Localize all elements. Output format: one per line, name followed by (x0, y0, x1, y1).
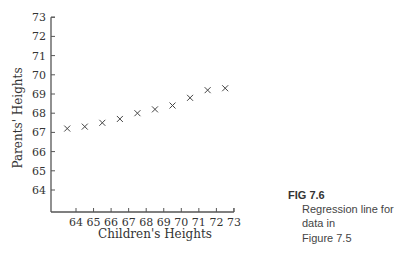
x-marker (222, 85, 228, 91)
x-tick-label: 73 (227, 216, 241, 229)
y-tick-label: 69 (32, 88, 46, 101)
x-marker (117, 116, 123, 122)
y-tick-label: 65 (32, 165, 46, 178)
figure-caption: FIG 7.6 Regression line for data in Figu… (288, 189, 402, 245)
y-tick-label: 66 (32, 146, 46, 159)
x-axis-title: Children's Heights (98, 227, 212, 241)
x-marker (170, 103, 176, 109)
x-tick-label: 64 (69, 216, 83, 229)
x-marker (99, 120, 105, 126)
x-marker (187, 95, 193, 101)
caption-line-1: Regression line for data in (302, 202, 402, 230)
caption-line-2: Figure 7.5 (302, 231, 402, 245)
y-tick-label: 64 (32, 184, 46, 197)
y-axis-title: Parents' Heights (11, 67, 25, 168)
y-tick-label: 71 (32, 50, 46, 63)
x-marker (205, 87, 211, 93)
data-points (64, 85, 228, 131)
figure-label: FIG 7.6 (288, 189, 402, 201)
axes: 6465666768697071727364656667686970717273 (32, 11, 241, 229)
x-marker (82, 124, 88, 130)
x-marker (64, 126, 70, 132)
y-tick-label: 68 (32, 107, 46, 120)
y-tick-label: 70 (32, 69, 46, 82)
y-tick-label: 67 (32, 126, 46, 139)
y-tick-label: 73 (32, 11, 46, 24)
x-marker (134, 110, 140, 116)
x-marker (152, 106, 158, 112)
y-tick-label: 72 (32, 30, 46, 43)
